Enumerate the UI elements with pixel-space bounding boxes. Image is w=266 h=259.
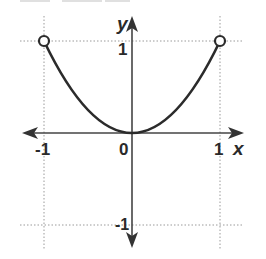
y-tick-label-1: 1 bbox=[118, 40, 127, 59]
x-tick-label-1: 1 bbox=[214, 140, 223, 159]
open-endpoint-left bbox=[39, 36, 49, 46]
cropped-top-text bbox=[20, 0, 130, 2]
function-graph: y 1 -1 0 1 x -1 bbox=[0, 0, 266, 259]
y-tick-label-neg1: -1 bbox=[115, 216, 129, 233]
y-axis-label: y bbox=[116, 13, 129, 34]
x-axis-label: x bbox=[232, 138, 245, 159]
x-tick-label-neg1: -1 bbox=[35, 140, 50, 159]
origin-label: 0 bbox=[119, 140, 128, 159]
open-endpoint-right bbox=[215, 36, 225, 46]
